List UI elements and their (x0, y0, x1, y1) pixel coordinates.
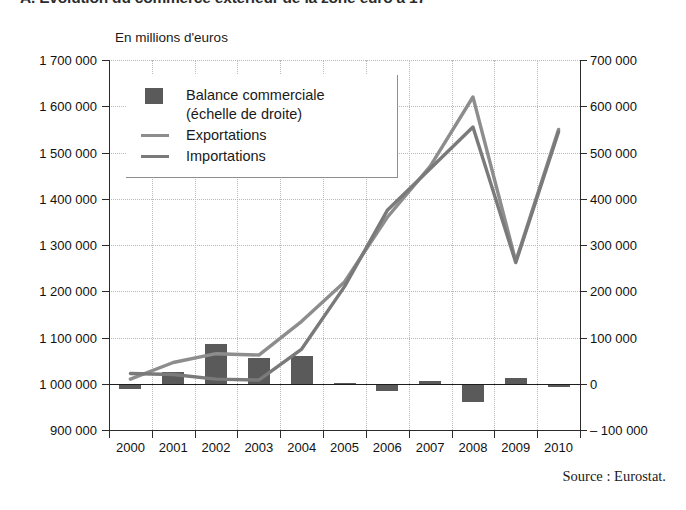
tick-bottom (580, 430, 581, 438)
x-axis-tick-label-2010: 2010 (537, 441, 581, 455)
y-axis-tick-label-right: 700 000 (590, 54, 685, 67)
y-axis-tick-label-right: 400 000 (590, 193, 685, 206)
tick-right (580, 338, 587, 339)
x-axis-tick-label-2007: 2007 (408, 441, 452, 455)
x-axis-line (109, 430, 580, 431)
tick-right (580, 106, 587, 107)
tick-left (102, 153, 109, 154)
legend-label-2: Importations (186, 147, 266, 166)
y-axis-tick-label-left: 1 500 000 (13, 147, 97, 160)
x-axis-tick-label-2003: 2003 (237, 441, 281, 455)
chart-plot-area: 1 700 0001 600 0001 500 0001 400 0001 30… (109, 60, 580, 430)
tick-right (580, 153, 587, 154)
tick-right (580, 60, 587, 61)
x-axis-tick-label-2004: 2004 (280, 441, 324, 455)
y-axis-tick-label-left: 1 000 000 (13, 378, 97, 391)
page-title: A. Évolution du commerce extérieur de la… (20, 0, 660, 11)
zero-reference-line (109, 384, 580, 385)
legend-label-1: Exportations (186, 126, 267, 145)
y-axis-tick-label-right: 100 000 (590, 332, 685, 345)
tick-left (102, 291, 109, 292)
legend-item-1: Exportations (139, 126, 389, 145)
x-axis-tick-label-2000: 2000 (108, 441, 152, 455)
y-axis-tick-label-left: 1 300 000 (13, 239, 97, 252)
tick-bottom (195, 430, 196, 438)
tick-bottom (452, 430, 453, 438)
y-axis-tick-label-right: 0 (590, 378, 685, 391)
legend-item-0: Balance commerciale (échelle de droite) (139, 86, 389, 124)
legend-swatch-line-icon (141, 134, 169, 137)
tick-bottom (494, 430, 495, 438)
x-axis-tick-label-2006: 2006 (365, 441, 409, 455)
tick-right (580, 291, 587, 292)
tick-bottom (323, 430, 324, 438)
y-axis-tick-label-right: 600 000 (590, 100, 685, 113)
y-axis-tick-label-left: 1 700 000 (13, 54, 97, 67)
legend-label-0: Balance commerciale (échelle de droite) (186, 86, 325, 124)
tick-right (580, 430, 587, 431)
tick-left (102, 199, 109, 200)
legend-swatch-bar-icon (145, 88, 163, 104)
legend-swatch-line-icon (141, 155, 169, 158)
right-axis-line (580, 60, 581, 430)
tick-bottom (366, 430, 367, 438)
x-axis-tick-label-2005: 2005 (323, 441, 367, 455)
tick-bottom (237, 430, 238, 438)
x-axis-tick-label-2008: 2008 (451, 441, 495, 455)
tick-bottom (152, 430, 153, 438)
tick-right (580, 384, 587, 385)
chart-legend: Balance commerciale (échelle de droite)E… (126, 75, 398, 178)
tick-bottom (109, 430, 110, 438)
tick-right (580, 199, 587, 200)
tick-left (102, 430, 109, 431)
y-axis-tick-label-right: 300 000 (590, 239, 685, 252)
legend-key-0 (139, 86, 177, 105)
source-note: Source : Eurostat. (0, 468, 666, 485)
y-axis-tick-label-left: 1 400 000 (13, 193, 97, 206)
y-axis-tick-label-right: 200 000 (590, 285, 685, 298)
y-axis-tick-label-right: 500 000 (590, 147, 685, 160)
tick-left (102, 338, 109, 339)
tick-left (102, 245, 109, 246)
legend-item-2: Importations (139, 147, 389, 166)
y-axis-unit-label: En millions d'euros (115, 30, 228, 45)
tick-bottom (409, 430, 410, 438)
x-axis-tick-label-2001: 2001 (151, 441, 195, 455)
tick-left (102, 106, 109, 107)
tick-bottom (280, 430, 281, 438)
tick-right (580, 245, 587, 246)
legend-key-2 (139, 147, 177, 166)
y-axis-tick-label-right: – 100 000 (590, 424, 685, 437)
y-axis-tick-label-left: 1 200 000 (13, 285, 97, 298)
x-axis-tick-label-2002: 2002 (194, 441, 238, 455)
left-axis-line (109, 60, 110, 430)
y-axis-tick-label-left: 1 100 000 (13, 332, 97, 345)
legend-key-1 (139, 126, 177, 145)
y-axis-tick-label-left: 1 600 000 (13, 100, 97, 113)
tick-left (102, 384, 109, 385)
x-axis-tick-label-2009: 2009 (494, 441, 538, 455)
tick-bottom (537, 430, 538, 438)
y-axis-tick-label-left: 900 000 (13, 424, 97, 437)
tick-left (102, 60, 109, 61)
